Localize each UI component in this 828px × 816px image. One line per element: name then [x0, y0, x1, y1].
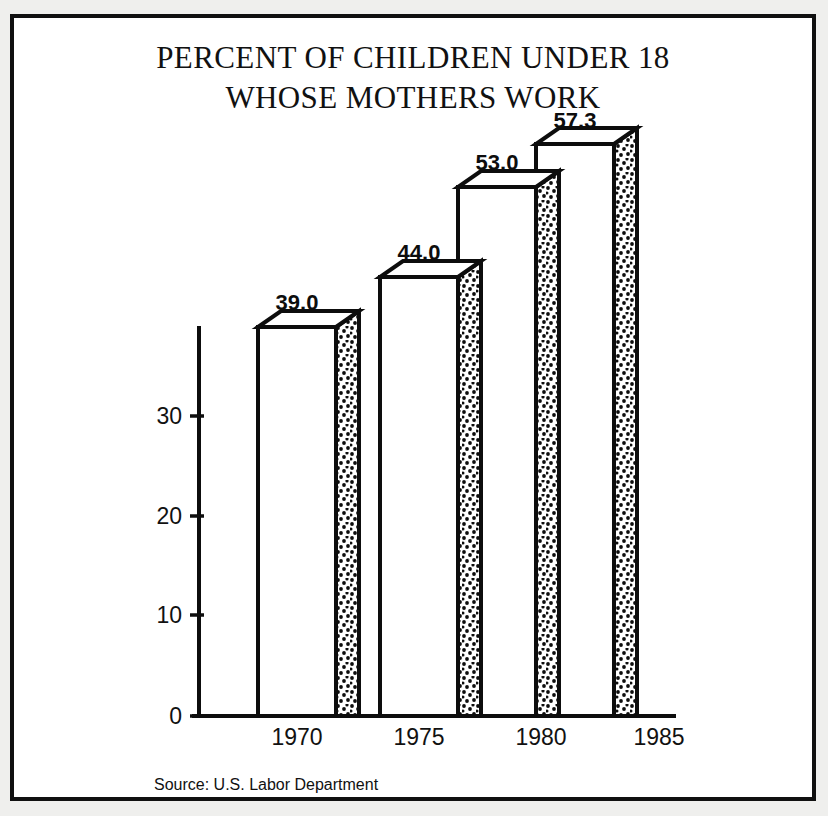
- source-note: Source: U.S. Labor Department: [154, 776, 379, 793]
- x-tick-label-1980: 1980: [515, 724, 566, 750]
- chart-title-line-2: WHOSE MOTHERS WORK: [225, 80, 600, 115]
- y-tick-label-0: 0: [169, 703, 182, 729]
- y-tick-label-20: 20: [156, 503, 182, 529]
- y-tick-30: 30: [156, 403, 204, 429]
- chart-area: PERCENT OF CHILDREN UNDER 18 WHOSE MOTHE…: [14, 18, 812, 797]
- y-tick-10: 10: [156, 602, 204, 628]
- x-tick-label-1970: 1970: [271, 724, 322, 750]
- screenshot-root: PERCENT OF CHILDREN UNDER 18 WHOSE MOTHE…: [0, 0, 828, 816]
- bar-value-label-1980: 53.0: [476, 150, 519, 175]
- bar-side-1980: [536, 171, 559, 716]
- y-tick-label-10: 10: [156, 602, 182, 628]
- chart-title: PERCENT OF CHILDREN UNDER 18 WHOSE MOTHE…: [156, 40, 670, 115]
- y-axis: 30 20 10 0: [156, 326, 204, 729]
- bar-chart: PERCENT OF CHILDREN UNDER 18 WHOSE MOTHE…: [14, 18, 812, 797]
- y-tick-20: 20: [156, 503, 204, 529]
- bar-side-1970: [336, 311, 359, 716]
- bar-side-1975: [458, 261, 481, 716]
- bars-group: 57.3 53.0 44.0: [258, 108, 637, 716]
- bar-front-1975: [380, 277, 458, 716]
- bar-1975[interactable]: 44.0: [380, 240, 481, 716]
- bar-value-label-1985: 57.3: [554, 108, 597, 133]
- bar-value-label-1970: 39.0: [276, 290, 319, 315]
- x-tick-label-1975: 1975: [393, 724, 444, 750]
- bar-side-1985: [614, 128, 637, 716]
- x-tick-label-1985: 1985: [633, 724, 684, 750]
- bar-front-1970: [258, 327, 336, 716]
- x-axis: 1970 1975 1980 1985: [192, 716, 685, 750]
- chart-title-line-1: PERCENT OF CHILDREN UNDER 18: [156, 40, 670, 75]
- bar-1970[interactable]: 39.0: [258, 290, 359, 716]
- bar-value-label-1975: 44.0: [398, 240, 441, 265]
- figure-frame: PERCENT OF CHILDREN UNDER 18 WHOSE MOTHE…: [10, 14, 816, 801]
- y-tick-label-30: 30: [156, 403, 182, 429]
